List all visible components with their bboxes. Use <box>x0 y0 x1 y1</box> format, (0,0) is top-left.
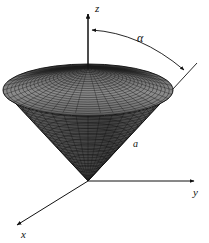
y-axis-label: y <box>192 186 198 198</box>
slant-label-a: a <box>133 138 138 149</box>
cone-inner-surface <box>3 64 173 116</box>
figure-canvas: z y x α a <box>0 0 209 243</box>
x-axis-line <box>17 181 88 225</box>
angle-label-alpha: α <box>137 31 144 45</box>
x-axis-label: x <box>20 228 26 240</box>
cone-figure: z y x α a <box>0 0 209 243</box>
z-axis-label: z <box>94 2 100 14</box>
